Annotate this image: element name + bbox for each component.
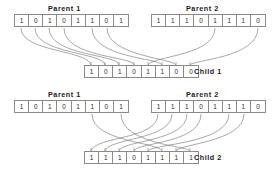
bit-cell: 1 [86, 15, 100, 26]
bit-cell: 1 [223, 101, 237, 112]
child-label: Child 1 [194, 67, 222, 76]
bit-cell: 1 [86, 101, 100, 112]
bit-cell: 1 [237, 101, 251, 112]
bit-cell: 0 [57, 15, 71, 26]
bit-cell: 1 [142, 152, 156, 163]
bit-cell: 1 [72, 15, 86, 26]
bit-cell: 1 [180, 101, 194, 112]
parent1-bitstring: 1 0 1 0 1 1 0 1 [14, 100, 129, 113]
parent1-label: Parent 1 [48, 90, 81, 99]
bit-cell: 0 [194, 101, 208, 112]
bit-cell: 1 [85, 66, 99, 77]
bit-cell: 0 [29, 101, 43, 112]
bit-cell: 1 [237, 15, 251, 26]
bit-cell: 0 [57, 101, 71, 112]
parent1-bitstring: 1 0 1 0 1 1 0 1 [14, 14, 129, 27]
bit-cell: 0 [170, 66, 184, 77]
bit-cell: 1 [209, 15, 223, 26]
bit-cell: 1 [152, 15, 166, 26]
bit-cell: 0 [99, 66, 113, 77]
bit-cell: 1 [170, 152, 184, 163]
bit-cell: 1 [99, 152, 113, 163]
bit-cell: 1 [142, 66, 156, 77]
bit-cell: 1 [209, 101, 223, 112]
bit-cell: 1 [43, 15, 57, 26]
bit-cell: 1 [152, 101, 166, 112]
crossover-block-child2: Parent 1 Parent 2 1 0 1 0 1 1 0 1 1 1 1 … [0, 86, 277, 172]
bit-cell: 1 [72, 101, 86, 112]
bit-cell: 0 [29, 15, 43, 26]
bit-cell: 0 [100, 15, 114, 26]
bit-cell: 1 [156, 66, 170, 77]
child-bitstring: 1 0 1 0 1 1 0 0 [84, 65, 199, 78]
bit-cell: 0 [100, 101, 114, 112]
bit-cell: 1 [43, 101, 57, 112]
parent2-label: Parent 2 [186, 4, 219, 13]
crossover-block-child1: Parent 1 Parent 2 1 0 1 0 1 1 0 1 1 1 1 … [0, 0, 277, 86]
child-label: Child 2 [194, 153, 222, 162]
parent1-label: Parent 1 [48, 4, 81, 13]
parent2-bitstring: 1 1 1 0 1 1 1 0 [151, 100, 266, 113]
bit-cell: 0 [127, 152, 141, 163]
bit-cell: 1 [114, 15, 128, 26]
bit-cell: 0 [127, 66, 141, 77]
parent2-bitstring: 1 1 1 0 1 1 1 0 [151, 14, 266, 27]
bit-cell: 1 [166, 15, 180, 26]
bit-cell: 0 [251, 15, 265, 26]
bit-cell: 1 [223, 15, 237, 26]
crossover-diagram: Parent 1 Parent 2 1 0 1 0 1 1 0 1 1 1 1 … [0, 0, 277, 173]
bit-cell: 1 [113, 152, 127, 163]
bit-cell: 1 [85, 152, 99, 163]
bit-cell: 0 [251, 101, 265, 112]
bit-cell: 1 [166, 101, 180, 112]
bit-cell: 1 [113, 66, 127, 77]
bit-cell: 0 [194, 15, 208, 26]
bit-cell: 1 [156, 152, 170, 163]
child-bitstring: 1 1 1 0 1 1 1 1 [84, 151, 199, 164]
bit-cell: 1 [180, 15, 194, 26]
bit-cell: 1 [114, 101, 128, 112]
parent2-label: Parent 2 [186, 90, 219, 99]
bit-cell: 1 [15, 15, 29, 26]
bit-cell: 1 [15, 101, 29, 112]
